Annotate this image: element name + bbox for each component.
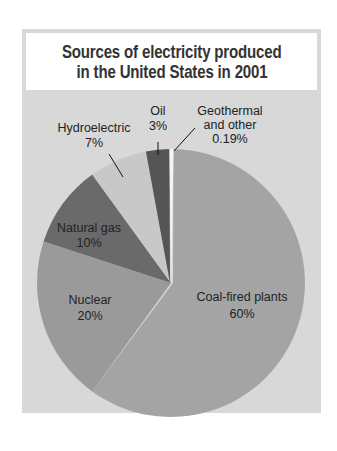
value-hydroelectric: 7%: [85, 136, 103, 150]
label-nuclear: Nuclear: [68, 293, 111, 307]
value-oil: 3%: [149, 119, 167, 133]
value-coal: 60%: [229, 307, 254, 321]
label-hydroelectric: Hydroelectric: [58, 121, 131, 135]
slice-geothermal: [170, 149, 174, 283]
value-geothermal: 0.19%: [212, 132, 247, 146]
label-geothermal-2: and other: [204, 118, 257, 132]
value-natural-gas: 10%: [76, 236, 101, 250]
label-natural-gas: Natural gas: [57, 221, 121, 235]
leader-geothermal: [174, 128, 195, 151]
value-nuclear: 20%: [77, 309, 102, 323]
label-geothermal-1: Geothermal: [197, 104, 262, 118]
label-coal: Coal-fired plants: [196, 290, 287, 304]
pie-chart: Oil 3% Geothermal and other 0.19% Hydroe…: [0, 0, 337, 451]
label-oil: Oil: [150, 104, 165, 118]
